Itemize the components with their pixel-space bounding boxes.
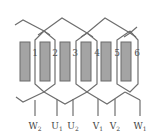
slot-number-1: 1 bbox=[32, 48, 38, 58]
top-end-wire-a bbox=[15, 20, 50, 35]
terminal-label-w1: W1 bbox=[133, 121, 146, 132]
bottom-end-wire-b bbox=[44, 92, 87, 104]
terminal-label-u1: U1 bbox=[51, 121, 62, 132]
slot-number-6: 6 bbox=[134, 48, 140, 58]
bottom-end-wire-c bbox=[87, 92, 125, 104]
slot-3 bbox=[60, 42, 70, 81]
slot-number-3: 3 bbox=[72, 48, 78, 58]
slot-number-5: 5 bbox=[114, 48, 120, 58]
terminal-label-u2: U2 bbox=[67, 121, 79, 132]
slot-4 bbox=[81, 42, 91, 81]
slot-2 bbox=[40, 42, 50, 81]
bottom-end-wire-d bbox=[125, 92, 140, 100]
terminal-label-w2: W2 bbox=[28, 121, 41, 132]
slot-5 bbox=[101, 42, 111, 81]
slot-6 bbox=[121, 42, 131, 81]
slot-number-2: 2 bbox=[52, 48, 58, 58]
slot-1 bbox=[20, 42, 30, 81]
slot-number-4: 4 bbox=[94, 48, 100, 58]
bottom-end-wire-a bbox=[16, 92, 44, 102]
terminal-label-v2: V2 bbox=[109, 121, 121, 132]
winding-diagram: 1 2 3 4 5 6 W2 U1 U2 V1 V2 W1 bbox=[0, 0, 156, 137]
terminal-label-v1: V1 bbox=[92, 121, 103, 132]
